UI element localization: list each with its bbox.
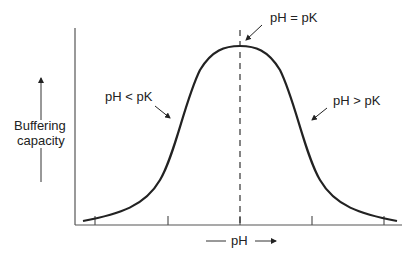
left-arrow xyxy=(155,106,170,118)
x-axis-label: pH xyxy=(231,233,248,248)
peak-arrow xyxy=(246,25,262,40)
left-slope-annotation: pH < pK xyxy=(105,89,152,104)
right-arrow xyxy=(312,108,327,120)
peak-annotation: pH = pK xyxy=(270,10,317,25)
y-axis-label-line2: capacity xyxy=(17,133,65,148)
y-axis-label-line1: Buffering xyxy=(14,118,66,133)
right-slope-annotation: pH > pK xyxy=(333,93,380,108)
